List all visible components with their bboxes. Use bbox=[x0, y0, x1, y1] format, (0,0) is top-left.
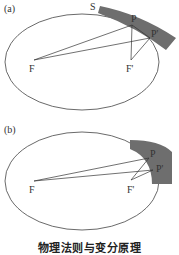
panel-a-label: (a) bbox=[4, 3, 15, 15]
reflecting-surface-a bbox=[98, 6, 176, 50]
focus-f-prime-b: F' bbox=[127, 184, 135, 195]
panel-a: (a) S F F' P P' bbox=[4, 1, 176, 110]
focus-f-a: F bbox=[29, 63, 35, 74]
focus-f-prime-a: F' bbox=[126, 63, 134, 74]
surface-label-s: S bbox=[90, 1, 96, 12]
point-p-a: P bbox=[131, 13, 137, 24]
point-p-prime-b: P' bbox=[156, 163, 164, 174]
point-p-b: P bbox=[150, 148, 156, 159]
figure-caption: 物理法则与变分原理 bbox=[0, 239, 179, 255]
rays-b bbox=[34, 158, 153, 181]
focus-f-b: F bbox=[29, 184, 35, 195]
rays-a bbox=[34, 25, 150, 60]
panel-b-label: (b) bbox=[4, 124, 16, 136]
panel-b: (b) F F' P P' bbox=[4, 124, 172, 230]
point-p-prime-a: P' bbox=[151, 28, 159, 39]
